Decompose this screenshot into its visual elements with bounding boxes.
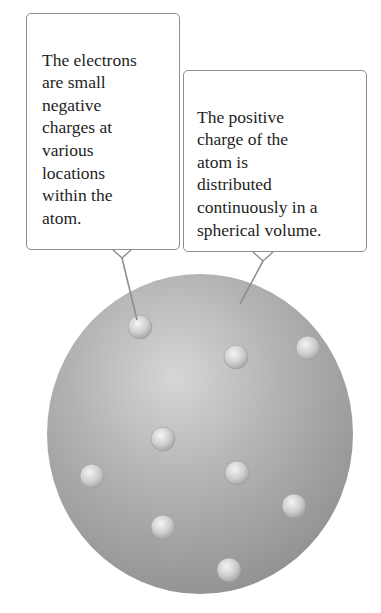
electron-icon [128, 315, 152, 339]
positive-charge-callout: The positive charge of the atom is distr… [183, 70, 367, 252]
thomson-atom-diagram: The electrons are small negative charges… [0, 0, 381, 613]
electron-icon [296, 336, 320, 360]
electron-icon [217, 558, 241, 582]
electron-icon [151, 427, 175, 451]
sphere-leader-line [253, 252, 273, 261]
electrons-callout: The electrons are small negative charges… [26, 13, 180, 250]
positive-charge-sphere [47, 274, 353, 594]
electron-icon [80, 464, 104, 488]
electrons-callout-text: The electrons are small negative charges… [42, 50, 137, 228]
electron-icon [225, 461, 249, 485]
electron-icon [151, 515, 175, 539]
electron-icon [224, 345, 248, 369]
electron-icon [282, 494, 306, 518]
electron-leader-line [112, 249, 132, 258]
positive-charge-callout-text: The positive charge of the atom is distr… [197, 107, 321, 240]
